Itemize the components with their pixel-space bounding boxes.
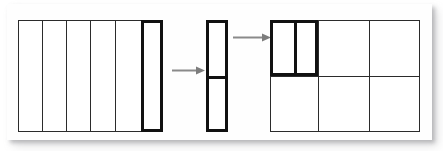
panel-left-highlighted-column [141, 20, 163, 132]
panel-left-divider-3 [90, 20, 91, 132]
arrow-left-to-middle-icon [172, 65, 206, 76]
panel-left-divider-4 [115, 20, 116, 132]
panel-right-row-divider-1 [270, 76, 420, 77]
diagram-canvas [0, 0, 443, 151]
panel-middle-split-divider [206, 76, 228, 79]
panel-left-divider-2 [66, 20, 67, 132]
arrow-middle-to-right-icon [233, 32, 272, 43]
panel-right-highlighted-cell-subdivider [294, 20, 297, 76]
panel-left-divider-1 [42, 20, 43, 132]
